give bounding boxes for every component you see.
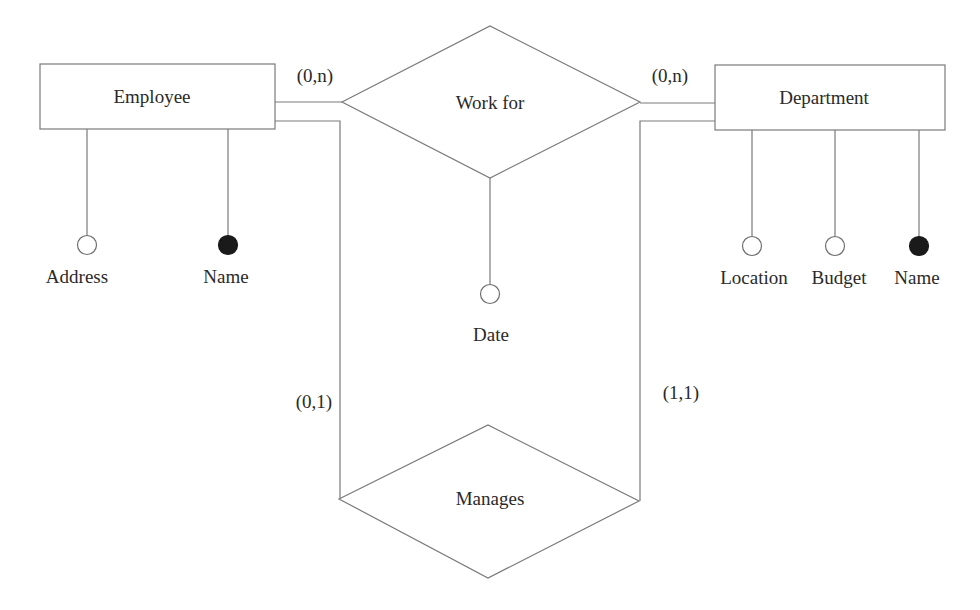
entity-label: Department	[779, 87, 869, 108]
er-diagram-canvas: Employee Department Work for Manages Add…	[0, 0, 980, 610]
attribute-open-circle-icon	[743, 237, 762, 256]
entity-employee[interactable]: Employee	[40, 64, 275, 129]
relationship-label: Manages	[456, 488, 525, 509]
relationship-manages[interactable]: Manages	[339, 425, 639, 578]
attribute-open-circle-icon	[481, 285, 500, 304]
connector-employee-manages	[275, 121, 340, 499]
key-attribute-filled-circle-icon	[219, 236, 238, 255]
attribute-label-department-budget: Budget	[812, 267, 868, 288]
cardinality-department-workfor: (0,n)	[652, 65, 688, 87]
connector-department-manages	[640, 121, 715, 501]
relationship-work-for[interactable]: Work for	[342, 26, 640, 178]
attribute-label-department-location: Location	[720, 267, 788, 288]
attribute-label-employee-name: Name	[203, 266, 248, 287]
attribute-label-employee-address: Address	[46, 266, 108, 287]
attribute-open-circle-icon	[78, 236, 97, 255]
attribute-label-department-name: Name	[894, 267, 939, 288]
key-attribute-filled-circle-icon	[910, 237, 929, 256]
cardinality-employee-manages: (0,1)	[296, 391, 332, 413]
attribute-labels: Address Name Date Location Budget Name	[46, 266, 940, 345]
attribute-label-workfor-date: Date	[473, 324, 509, 345]
attribute-open-circle-icon	[826, 237, 845, 256]
entity-label: Employee	[113, 86, 190, 107]
relationship-label: Work for	[456, 92, 525, 113]
entity-department[interactable]: Department	[715, 65, 945, 130]
cardinality-department-manages: (1,1)	[663, 382, 699, 404]
cardinality-employee-workfor: (0,n)	[297, 65, 333, 87]
